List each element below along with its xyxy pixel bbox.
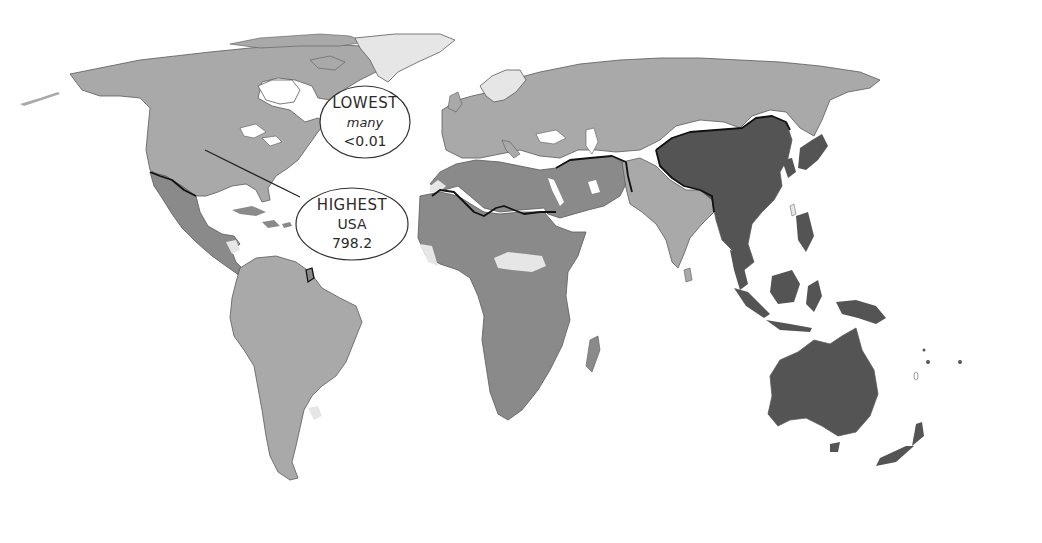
callout-lowest: LOWEST many <0.01 [320, 86, 410, 158]
region-sub-saharan-africa [418, 192, 600, 420]
region-south-america [230, 256, 362, 480]
callout-lowest-title: LOWEST [332, 94, 398, 112]
callout-highest-title: HIGHEST [317, 196, 388, 214]
region-oceania [734, 270, 962, 466]
callout-highest-subtitle: USA [338, 216, 367, 232]
callout-lowest-subtitle: many [347, 115, 384, 130]
world-choropleth-map: LOWEST many <0.01 HIGHEST USA 798.2 [0, 0, 1042, 543]
callout-highest-value: 798.2 [332, 235, 372, 251]
callout-lowest-value: <0.01 [344, 133, 387, 149]
